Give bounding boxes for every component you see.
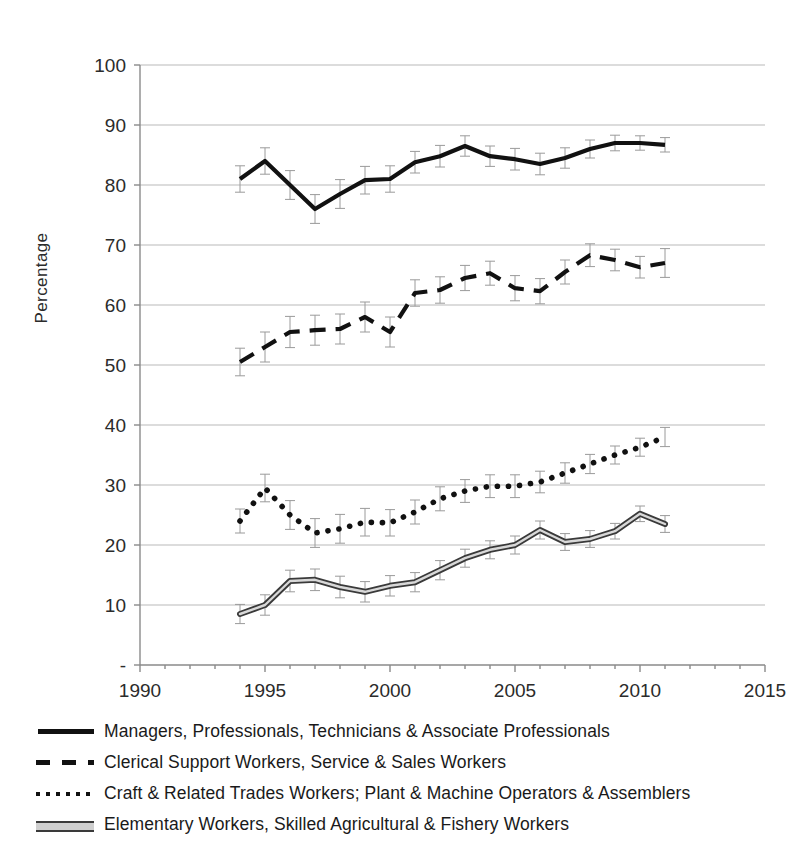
y-tick-label: 100 (94, 55, 126, 76)
y-tick-label: 20 (105, 535, 126, 556)
legend-item: Managers, Professionals, Technicians & A… (24, 718, 784, 744)
data-series (240, 143, 665, 614)
legend-item-label: Clerical Support Workers, Service & Sale… (104, 752, 506, 773)
y-tick-label: - (120, 655, 126, 676)
y-axis-title: Percentage (32, 198, 52, 358)
y-tick-label: 50 (105, 355, 126, 376)
y-tick-label: 60 (105, 295, 126, 316)
chart-figure: -102030405060708090100 19901995200020052… (0, 0, 792, 847)
legend-item-label: Craft & Related Trades Workers; Plant & … (104, 783, 690, 804)
legend-key-dashed-icon (24, 752, 96, 772)
y-axis (134, 65, 140, 665)
legend-key-solid-icon (24, 721, 96, 741)
x-axis (140, 665, 765, 672)
y-tick-label: 90 (105, 115, 126, 136)
series-line-inner (240, 514, 665, 614)
x-tick-label: 1990 (119, 680, 161, 701)
legend-item: Clerical Support Workers, Service & Sale… (24, 749, 784, 775)
y-tick-label: 80 (105, 175, 126, 196)
x-tick-label: 2015 (744, 680, 786, 701)
x-tick-labels: 199019952000200520102015 (119, 680, 786, 701)
legend-item: Elementary Workers, Skilled Agricultural… (24, 811, 784, 837)
series-line (240, 255, 665, 362)
y-tick-label: 40 (105, 415, 126, 436)
y-tick-label: 10 (105, 595, 126, 616)
legend-key-double-icon (24, 814, 96, 834)
error-bars (235, 135, 670, 623)
legend-item-label: Managers, Professionals, Technicians & A… (104, 721, 610, 742)
chart-legend: Managers, Professionals, Technicians & A… (24, 718, 784, 842)
legend-item-label: Elementary Workers, Skilled Agricultural… (104, 814, 569, 835)
x-tick-label: 1995 (244, 680, 286, 701)
series-line (240, 143, 665, 209)
legend-item: Craft & Related Trades Workers; Plant & … (24, 780, 784, 806)
x-tick-label: 2000 (369, 680, 411, 701)
legend-key-dotted-icon (24, 783, 96, 803)
gridlines (140, 65, 765, 605)
x-tick-label: 2010 (619, 680, 661, 701)
y-tick-label: 30 (105, 475, 126, 496)
y-tick-label: 70 (105, 235, 126, 256)
y-tick-labels: -102030405060708090100 (94, 55, 126, 676)
x-tick-label: 2005 (494, 680, 536, 701)
